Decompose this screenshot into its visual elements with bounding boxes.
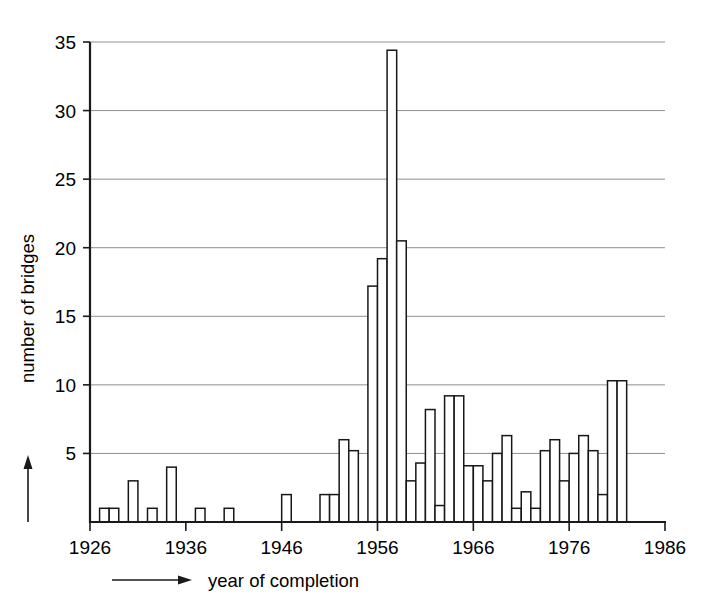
- x-axis-ticks: 1926193619461956196619761986: [69, 522, 686, 558]
- xtick-label-1936: 1936: [165, 537, 207, 558]
- bar-1962: [435, 506, 445, 522]
- y-axis-title: number of bridges: [17, 234, 38, 383]
- bar-series: [100, 50, 627, 522]
- bar-1970: [512, 508, 522, 522]
- bar-1956: [378, 259, 388, 522]
- bar-1981: [617, 381, 627, 522]
- ytick-label-20: 20: [55, 238, 76, 259]
- y-axis-arrow-head: [24, 455, 33, 469]
- bar-1958: [397, 241, 407, 522]
- bar-1972: [531, 508, 541, 522]
- chart-canvas: 5101520253035 19261936194619561966197619…: [0, 0, 712, 613]
- bar-1928: [109, 508, 119, 522]
- x-axis-arrow-head: [178, 576, 192, 585]
- bar-1976: [569, 453, 579, 522]
- xtick-label-1986: 1986: [644, 537, 686, 558]
- bar-1927: [100, 508, 110, 522]
- y-axis-ticks: 5101520253035: [55, 32, 90, 464]
- bar-1946: [282, 495, 292, 522]
- bar-1978: [588, 451, 598, 522]
- ytick-label-25: 25: [55, 169, 76, 190]
- xtick-label-1966: 1966: [452, 537, 494, 558]
- xtick-label-1976: 1976: [548, 537, 590, 558]
- ytick-label-35: 35: [55, 32, 76, 53]
- bar-1934: [167, 467, 177, 522]
- bar-1974: [550, 440, 560, 522]
- bar-1940: [224, 508, 234, 522]
- bar-1980: [608, 381, 618, 522]
- bar-1967: [483, 481, 493, 522]
- bar-1960: [416, 463, 426, 522]
- bar-1950: [320, 495, 330, 522]
- ytick-label-15: 15: [55, 306, 76, 327]
- bar-1973: [540, 451, 550, 522]
- bar-1959: [406, 481, 416, 522]
- x-axis-label-group: year of completion: [112, 570, 359, 591]
- bar-1969: [502, 436, 512, 522]
- bar-1937: [195, 508, 205, 522]
- ytick-label-10: 10: [55, 375, 76, 396]
- bar-1965: [464, 466, 474, 522]
- xtick-label-1946: 1946: [261, 537, 303, 558]
- bar-1932: [148, 508, 158, 522]
- bar-1955: [368, 286, 378, 522]
- bar-1979: [598, 495, 608, 522]
- bar-1977: [579, 436, 589, 522]
- bar-1971: [521, 492, 531, 522]
- x-axis-title: year of completion: [208, 570, 359, 591]
- xtick-label-1926: 1926: [69, 537, 111, 558]
- xtick-label-1956: 1956: [356, 537, 398, 558]
- bar-1961: [425, 410, 435, 522]
- bar-1953: [349, 451, 359, 522]
- bar-1975: [560, 481, 570, 522]
- bar-1963: [445, 396, 455, 522]
- bar-1968: [493, 453, 503, 522]
- bar-1957: [387, 50, 397, 522]
- ytick-label-5: 5: [65, 443, 76, 464]
- bridge-completion-histogram: 5101520253035 19261936194619561966197619…: [0, 0, 712, 613]
- bar-1930: [128, 481, 138, 522]
- bar-1952: [339, 440, 349, 522]
- bar-1951: [330, 495, 340, 522]
- bar-1964: [454, 396, 464, 522]
- y-axis-label-group: number of bridges: [17, 234, 38, 522]
- bar-1966: [473, 466, 483, 522]
- ytick-label-30: 30: [55, 101, 76, 122]
